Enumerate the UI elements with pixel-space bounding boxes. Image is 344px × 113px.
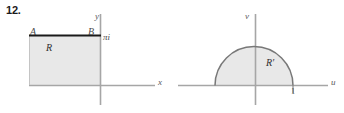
tick-label-one: 1 [291, 88, 295, 96]
axis-label-x: x [158, 78, 162, 87]
vertex-label-A: A [30, 27, 36, 37]
axis-label-y: y [95, 12, 99, 21]
right-panel-group [178, 14, 328, 105]
axis-label-v: v [245, 12, 249, 21]
region-label-R-prime: R′ [266, 58, 274, 68]
region-R-fill [29, 35, 100, 85]
figure-container: 12. [0, 0, 344, 113]
axis-label-u: u [331, 78, 336, 87]
region-label-R: R [46, 43, 52, 53]
region-Rprime-fill [215, 47, 293, 86]
figure-graphics [0, 0, 344, 113]
vertex-label-B: B [88, 27, 94, 37]
point-label-pi-i: πi [103, 33, 110, 42]
